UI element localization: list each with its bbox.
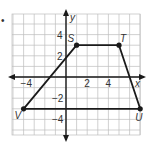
y-tick-label: 4 bbox=[57, 30, 63, 41]
y-axis-up-arrow-icon bbox=[63, 9, 69, 16]
vertex-s-label: S bbox=[68, 33, 75, 44]
x-axis-left-arrow-icon bbox=[8, 74, 15, 80]
axes: y x bbox=[8, 9, 146, 142]
x-tick-label: −4 bbox=[21, 78, 33, 89]
vertex-t-label: T bbox=[120, 33, 127, 44]
y-tick-label: −2 bbox=[52, 93, 64, 104]
vertex-u-point bbox=[138, 106, 143, 111]
vertex-v-point bbox=[21, 106, 26, 111]
problem-bullet: • bbox=[1, 15, 5, 26]
grid-border bbox=[12, 14, 140, 135]
coordinate-plane: • y x −42442−2−4 STUV bbox=[0, 0, 148, 146]
x-tick-label: 4 bbox=[105, 78, 111, 89]
vertex-u-label: U bbox=[135, 112, 143, 123]
grid-lines bbox=[12, 14, 140, 135]
y-axis-down-arrow-icon bbox=[63, 135, 69, 142]
y-tick-label: −4 bbox=[52, 114, 64, 125]
x-axis-label: x bbox=[134, 78, 141, 89]
x-tick-label: 2 bbox=[84, 78, 90, 89]
vertex-s-point bbox=[74, 43, 79, 48]
y-axis-label: y bbox=[69, 12, 76, 23]
x-axis-right-arrow-icon bbox=[139, 74, 146, 80]
y-tick-label: 2 bbox=[57, 51, 63, 62]
